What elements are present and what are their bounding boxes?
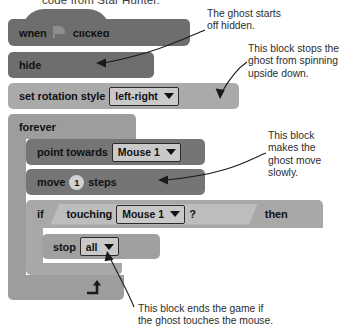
then-label: then xyxy=(265,208,288,220)
set-rotation-style-label: set rotation style xyxy=(19,90,105,102)
rotation-style-dropdown[interactable]: left-right xyxy=(109,87,179,106)
scratch-script-diagram: code from Star Hunter. when clicked hide… xyxy=(0,0,350,335)
forever-block-spine xyxy=(8,137,26,277)
chevron-down-icon xyxy=(164,93,174,99)
hide-label: hide xyxy=(19,59,41,71)
loop-arrow-icon xyxy=(84,279,101,296)
point-towards-target-value: Mouse 1 xyxy=(118,146,160,158)
move-steps-input[interactable]: 1 xyxy=(69,175,84,190)
rotation-style-value: left-right xyxy=(115,90,158,102)
forever-label: forever xyxy=(19,121,56,133)
block-when-flag-clicked[interactable]: when clicked xyxy=(8,19,190,46)
chevron-down-icon xyxy=(170,211,180,217)
if-label: if xyxy=(37,208,44,220)
chevron-down-icon xyxy=(166,149,176,155)
page-caption: code from Star Hunter. xyxy=(42,0,160,6)
move-label: move xyxy=(37,176,65,188)
chevron-down-icon xyxy=(104,244,114,250)
block-move-steps[interactable]: move 1 steps xyxy=(26,169,205,195)
stop-option-dropdown[interactable]: all xyxy=(80,237,119,256)
touching-target-dropdown[interactable]: Mouse 1 xyxy=(116,205,185,224)
block-touching-boolean[interactable]: touching Mouse 1 ? xyxy=(51,204,258,225)
block-point-towards[interactable]: point towards Mouse 1 xyxy=(26,139,205,165)
touching-question-mark: ? xyxy=(189,208,196,220)
annotation-move: This block makes the ghost move slowly. xyxy=(268,130,321,180)
touching-target-value: Mouse 1 xyxy=(122,208,164,220)
touching-label: touching xyxy=(67,208,113,220)
stop-option-value: all xyxy=(86,241,98,253)
green-flag-icon xyxy=(52,26,67,39)
block-forever[interactable]: forever xyxy=(8,114,136,139)
block-stop[interactable]: stop all xyxy=(42,234,160,259)
point-towards-target-dropdown[interactable]: Mouse 1 xyxy=(112,143,181,162)
block-set-rotation-style[interactable]: set rotation style left-right xyxy=(8,83,239,109)
stop-label: stop xyxy=(53,241,76,253)
forever-block-foot xyxy=(8,275,124,300)
if-block-foot xyxy=(26,263,122,275)
block-hide[interactable]: hide xyxy=(8,52,154,78)
steps-label: steps xyxy=(88,176,116,188)
block-if-then[interactable]: if touching Mouse 1 ? then xyxy=(26,200,323,228)
annotation-hide: The ghost starts off hidden. xyxy=(207,8,281,33)
annotation-rotation: This block stops the ghost from spinning… xyxy=(248,43,339,80)
annotation-stop: This block ends the game if the ghost to… xyxy=(138,303,273,328)
if-block-spine xyxy=(26,226,43,266)
point-towards-label: point towards xyxy=(37,146,108,158)
